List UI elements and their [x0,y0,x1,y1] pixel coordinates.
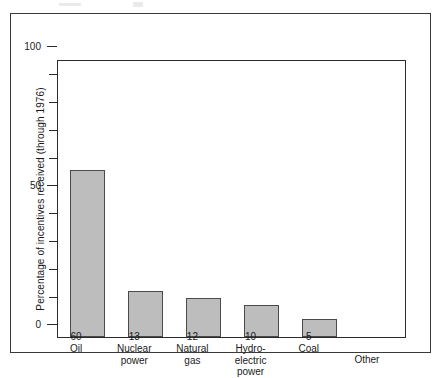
y-axis-tick [47,185,57,186]
y-axis-tick-label: 0 [11,320,41,330]
x-axis-value-label: 5 [279,331,339,342]
x-axis-value-label: 10 [221,331,281,342]
y-axis-tick-label: 100 [11,42,41,52]
x-axis-value-label: 60 [46,331,106,342]
x-axis-value-label: 12 [162,331,222,342]
bar [70,170,105,337]
y-axis-tick [47,324,57,325]
y-axis-tick [49,158,57,159]
y-axis-tick [49,297,57,298]
x-axis-category-label: Nuclear power [102,343,166,366]
scan-artifact [133,2,143,7]
y-axis-tick [49,213,57,214]
x-axis-category-label: Natural gas [160,343,224,366]
y-axis-tick [47,46,57,47]
x-axis-category-label: Coal [277,343,341,355]
y-axis-tick [49,269,57,270]
x-axis-value-label: 13 [104,331,164,342]
y-axis-tick [49,102,57,103]
y-axis-title: Percentage of incentives received (throu… [33,60,49,338]
y-axis-tick-label: 50 [11,181,41,191]
scan-artifact [59,3,81,6]
y-axis-tick [49,130,57,131]
x-axis-category-label: Oil [44,343,108,355]
x-axis-category-label: Other [335,354,399,366]
y-axis-tick [49,74,57,75]
plot-area [57,60,406,338]
x-axis-category-label: Hydro- electric power [219,343,283,378]
figure-frame: Percentage of incentives received (throu… [10,13,431,353]
y-axis-tick [49,241,57,242]
